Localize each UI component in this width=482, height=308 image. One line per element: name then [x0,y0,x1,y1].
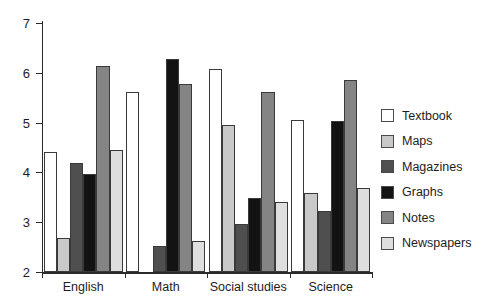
legend-swatch-icon [381,135,394,148]
y-axis-tick-label: 2 [0,265,30,280]
bar [192,241,205,272]
legend-swatch-icon [381,109,394,122]
plot-area [42,23,372,272]
y-axis-tick-label: 7 [0,16,30,31]
x-axis-tick [372,272,373,278]
bar [275,202,288,272]
legend-swatch-icon [381,211,394,224]
x-axis-tick [290,272,291,278]
legend-item-label: Magazines [402,160,462,174]
bar [179,84,192,272]
x-axis-tick [42,272,43,278]
y-axis-tick-label: 6 [0,65,30,80]
bar [344,80,357,272]
legend-item-label: Textbook [402,109,452,123]
bar [166,59,179,272]
bar [248,198,261,272]
bar [110,150,123,272]
x-axis-category-label: Math [152,280,180,294]
bar [304,193,317,272]
bar [318,211,331,272]
bar [291,120,304,272]
bar [331,121,344,272]
legend-item-label: Newspapers [402,236,471,250]
bar [126,92,139,272]
x-axis-category-label: English [63,280,104,294]
bar [44,152,57,272]
x-axis-tick [207,272,208,278]
y-axis-tick-label: 5 [0,115,30,130]
y-axis-tick [36,73,42,74]
chart-figure: 234567 EnglishMathSocial studiesScience … [0,0,482,308]
bar [57,238,70,272]
bar [222,125,235,272]
chart-legend: TextbookMapsMagazinesGraphsNotesNewspape… [381,103,471,256]
legend-item[interactable]: Newspapers [381,231,471,257]
legend-item-label: Graphs [402,185,443,199]
x-axis-tick [125,272,126,278]
legend-swatch-icon [381,186,394,199]
legend-swatch-icon [381,237,394,250]
bar [70,163,83,272]
bar [83,174,96,272]
legend-swatch-icon [381,160,394,173]
legend-item[interactable]: Graphs [381,180,471,206]
x-axis-category-label: Science [309,280,353,294]
y-axis-tick [36,222,42,223]
bar [153,246,166,272]
bar [261,92,274,272]
legend-item[interactable]: Textbook [381,103,471,129]
legend-item[interactable]: Notes [381,205,471,231]
bar [357,188,370,272]
legend-item[interactable]: Magazines [381,154,471,180]
bar [235,224,248,272]
y-axis-tick-label: 4 [0,165,30,180]
legend-item-label: Maps [402,134,433,148]
y-axis-tick [36,172,42,173]
y-axis-tick-label: 3 [0,215,30,230]
legend-item[interactable]: Maps [381,129,471,155]
bar [209,69,222,272]
legend-item-label: Notes [402,211,435,225]
x-axis-category-label: Social studies [210,280,287,294]
bar [96,66,109,272]
y-axis-tick [36,23,42,24]
y-axis-tick [36,123,42,124]
